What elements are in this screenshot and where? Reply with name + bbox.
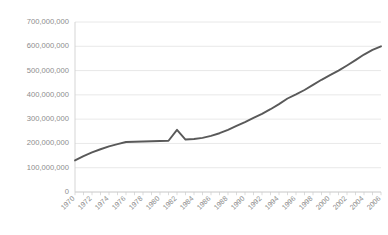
x-tick-label: 1980 <box>144 194 162 212</box>
y-tick-label: 300,000,000 <box>27 114 69 123</box>
y-tick-label: 100,000,000 <box>27 163 69 172</box>
x-tick-label: 2004 <box>348 194 366 212</box>
x-tick-label: 2000 <box>314 194 332 212</box>
x-tick-label: 1992 <box>246 194 264 212</box>
x-tick-label: 1970 <box>59 194 77 212</box>
x-tick-label: 1978 <box>127 194 145 212</box>
y-tick-label: 400,000,000 <box>27 90 69 99</box>
x-tick-label: 1974 <box>93 194 111 212</box>
x-tick-label: 1976 <box>110 194 128 212</box>
x-tick-label: 1994 <box>263 194 281 212</box>
chart-canvas: 0100,000,000200,000,000300,000,000400,00… <box>0 0 388 235</box>
x-tick-label: 2002 <box>331 194 349 212</box>
y-tick-label: 500,000,000 <box>27 66 69 75</box>
y-tick-label: 700,000,000 <box>27 17 69 26</box>
x-tick-label: 1972 <box>76 194 94 212</box>
x-tick-label: 1996 <box>280 194 298 212</box>
gridlines <box>75 22 381 192</box>
x-tick-label: 1988 <box>212 194 230 212</box>
x-tick-label: 2006 <box>365 194 383 212</box>
y-tick-label: 200,000,000 <box>27 138 69 147</box>
x-tick-label: 1984 <box>178 194 196 212</box>
x-tick-label: 1986 <box>195 194 213 212</box>
x-axis-tick-labels: 1970197219741976197819801982198419861988… <box>59 194 383 212</box>
y-axis-tick-labels: 0100,000,000200,000,000300,000,000400,00… <box>27 17 69 196</box>
x-tick-label: 1990 <box>229 194 247 212</box>
x-tick-label: 1998 <box>297 194 315 212</box>
line-chart: 0100,000,000200,000,000300,000,000400,00… <box>0 0 388 235</box>
y-tick-label: 600,000,000 <box>27 41 69 50</box>
x-tick-label: 1982 <box>161 194 179 212</box>
